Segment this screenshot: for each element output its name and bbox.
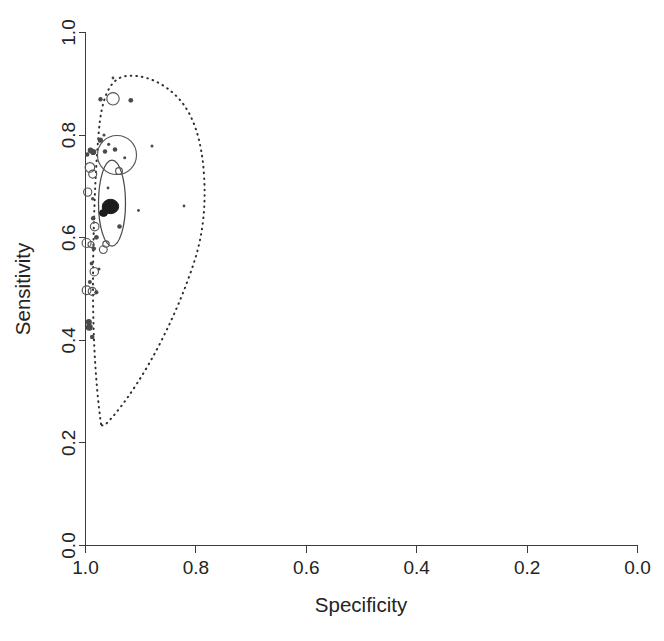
x-tick-label: 0.8 <box>183 557 209 578</box>
summary-estimate-point <box>100 199 119 216</box>
y-tick-label: 0.8 <box>58 122 79 148</box>
study-point <box>85 152 89 156</box>
y-tick-label: 1.0 <box>58 19 79 45</box>
study-point <box>88 280 92 284</box>
study-point <box>107 187 110 190</box>
y-axis-ticks: 0.0 0.2 0.4 0.6 0.8 1.0 <box>58 19 85 558</box>
x-tick-label: 1.0 <box>72 557 98 578</box>
study-point <box>84 188 92 196</box>
y-tick-label: 0.6 <box>58 224 79 250</box>
y-axis-title: Sensitivity <box>11 242 34 335</box>
study-point <box>128 98 133 103</box>
y-tick-label: 0.0 <box>58 532 79 558</box>
study-point <box>103 149 107 153</box>
study-point <box>107 93 119 105</box>
study-point <box>94 290 98 294</box>
plot-axes <box>86 33 638 546</box>
study-point <box>98 138 103 143</box>
study-point <box>91 197 94 200</box>
study-point <box>90 268 98 276</box>
study-point <box>92 246 96 250</box>
sroc-plot-canvas: 0.0 0.2 0.4 0.6 0.8 1.0 1.0 0.8 0.6 0.4 … <box>0 0 664 641</box>
x-tick-label: 0.6 <box>293 557 319 578</box>
sroc-plot-figure: 0.0 0.2 0.4 0.6 0.8 1.0 1.0 0.8 0.6 0.4 … <box>0 0 664 641</box>
study-points-layer <box>82 77 185 340</box>
study-point <box>90 222 99 231</box>
x-axis-title: Specificity <box>315 593 408 616</box>
study-point <box>82 286 91 295</box>
y-tick-label: 0.4 <box>58 327 79 354</box>
study-point <box>98 97 102 101</box>
x-axis-ticks: 1.0 0.8 0.6 0.4 0.2 0.0 <box>72 546 650 579</box>
study-point <box>90 149 96 155</box>
study-point <box>94 235 99 240</box>
study-point <box>98 268 101 271</box>
study-point <box>112 77 115 80</box>
study-point <box>123 156 126 159</box>
y-tick-label: 0.2 <box>58 430 79 456</box>
study-point <box>151 145 154 148</box>
prediction-region <box>93 76 205 426</box>
study-point <box>113 147 118 152</box>
study-point <box>137 209 140 212</box>
x-tick-label: 0.4 <box>403 557 430 578</box>
study-point <box>86 324 93 331</box>
study-point <box>90 262 94 266</box>
study-point <box>91 216 96 221</box>
x-tick-label: 0.0 <box>624 557 650 578</box>
study-point <box>117 224 122 229</box>
study-point <box>82 239 91 248</box>
study-point <box>102 133 105 136</box>
prediction-region-outline <box>93 76 205 426</box>
x-tick-label: 0.2 <box>514 557 540 578</box>
study-point <box>107 143 110 146</box>
study-point <box>90 335 95 340</box>
summary-point-marker-tail <box>100 210 108 217</box>
study-point <box>183 205 186 208</box>
